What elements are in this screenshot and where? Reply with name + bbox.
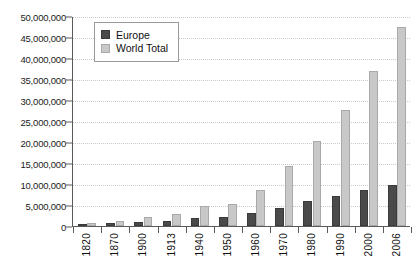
gridline (73, 185, 410, 186)
y-axis-tick-label: 30,000,000 (0, 96, 66, 107)
x-axis-tick-label: 1940 (194, 233, 205, 256)
x-axis-tick-label: 1900 (137, 233, 148, 256)
bar-world-total-1913 (172, 214, 181, 226)
bar-europe-1950 (219, 217, 228, 226)
bar-world-total-1980 (313, 141, 322, 226)
bar-europe-1980 (303, 201, 312, 226)
legend-label-europe: Europe (116, 29, 150, 41)
bar-europe-1820 (78, 224, 87, 226)
bar-world-total-1960 (256, 190, 265, 226)
y-axis-tick-label: 10,000,000 (0, 180, 66, 191)
chart-legend: Europe World Total (94, 22, 179, 62)
bar-world-total-1900 (144, 217, 153, 226)
y-axis-tick-label: 45,000,000 (0, 33, 66, 44)
y-axis-tick-label: 5,000,000 (0, 201, 66, 212)
bar-world-total-1940 (200, 206, 209, 226)
y-axis-tick-label: 40,000,000 (0, 54, 66, 65)
bar-europe-1940 (191, 218, 200, 226)
bar-europe-1900 (134, 222, 143, 226)
x-axis-tick-label: 1870 (109, 233, 120, 256)
legend-item-europe: Europe (101, 29, 168, 41)
y-axis-tick-label: 0 (0, 222, 66, 233)
x-axis-tick-label: 1820 (81, 233, 92, 256)
bar-world-total-1820 (87, 223, 96, 226)
y-axis-tick-label: 15,000,000 (0, 159, 66, 170)
bar-world-total-1970 (285, 166, 294, 226)
gridline (73, 122, 410, 123)
x-axis-tick-mark (411, 227, 412, 233)
x-axis-tick-label: 2000 (363, 233, 374, 256)
bar-europe-2000 (360, 190, 369, 226)
legend-label-world-total: World Total (116, 42, 168, 54)
gridline (73, 80, 410, 81)
bar-world-total-1870 (116, 221, 125, 226)
x-axis-tick-label: 1950 (222, 233, 233, 256)
bar-world-total-1950 (228, 204, 237, 226)
bar-world-total-2006 (397, 27, 406, 226)
x-axis: 1820187019001913194019501960197019801990… (72, 233, 410, 270)
x-axis-tick-label: 2006 (391, 233, 402, 256)
x-axis-tick-label: 1980 (306, 233, 317, 256)
bar-europe-1960 (247, 213, 256, 226)
bar-europe-2006 (388, 185, 397, 226)
gridline (73, 164, 410, 165)
legend-swatch-world-total (101, 44, 110, 53)
y-axis-tick-label: 50,000,000 (0, 12, 66, 23)
x-axis-tick-label: 1970 (278, 233, 289, 256)
bar-world-total-1990 (341, 110, 350, 226)
gridline (73, 143, 410, 144)
y-axis: 50,000,00045,000,00040,000,00035,000,000… (0, 0, 66, 270)
y-axis-tick-label: 35,000,000 (0, 75, 66, 86)
bar-chart: 50,000,00045,000,00040,000,00035,000,000… (0, 0, 420, 270)
legend-item-world-total: World Total (101, 42, 168, 54)
y-axis-tick-label: 25,000,000 (0, 117, 66, 128)
bar-europe-1990 (332, 196, 341, 226)
bar-europe-1970 (275, 208, 284, 226)
x-axis-tick-label: 1913 (166, 233, 177, 256)
legend-swatch-europe (101, 30, 110, 39)
gridline (73, 101, 410, 102)
gridline (73, 17, 410, 18)
bar-europe-1913 (163, 221, 172, 226)
x-axis-tick-label: 1960 (250, 233, 261, 256)
x-axis-tick-label: 1990 (335, 233, 346, 256)
bar-europe-1870 (106, 223, 115, 226)
y-axis-tick-label: 20,000,000 (0, 138, 66, 149)
bar-world-total-2000 (369, 71, 378, 226)
